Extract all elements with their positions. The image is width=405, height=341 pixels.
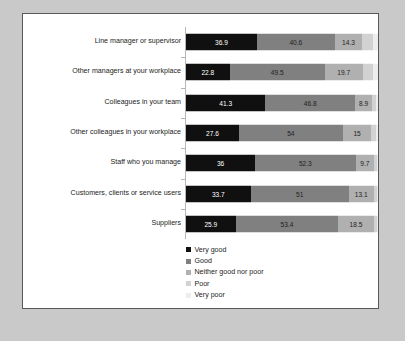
bar-segment: [363, 64, 373, 81]
chart-legend: Very goodGoodNeither good nor poorPoorVe…: [186, 244, 376, 301]
bar-segment: 15: [343, 124, 372, 141]
legend-item[interactable]: Very poor: [186, 290, 376, 301]
stacked-bar: 33.75113.1: [186, 185, 378, 202]
bar-segment: [373, 34, 378, 51]
bar-segment: 22.8: [186, 64, 230, 81]
bar-row: Suppliers25.953.418.5: [23, 209, 380, 239]
legend-label: Poor: [195, 280, 210, 288]
axis-tick: [181, 179, 185, 180]
legend-item[interactable]: Very good: [186, 244, 376, 255]
bar-segment: 41.3: [186, 94, 265, 111]
segment-value-label: 52.3: [299, 160, 312, 167]
legend-item[interactable]: Good: [186, 255, 376, 266]
legend-label: Good: [195, 257, 212, 265]
stacked-bar: 27.65415: [186, 124, 378, 141]
bar-segment: 53.4: [236, 215, 339, 232]
bar-segment: 9.7: [356, 155, 375, 172]
segment-value-label: 46.8: [304, 99, 317, 106]
category-label: Suppliers: [29, 220, 181, 228]
bar-segment: 46.8: [265, 94, 355, 111]
bar-segment: [373, 64, 378, 81]
bar-segment: 8.9: [355, 94, 372, 111]
category-label: Line manager or supervisor: [29, 38, 181, 46]
segment-value-label: 54: [287, 129, 294, 136]
chart-outer-frame: Line manager or supervisor36.940.614.3Ot…: [0, 0, 405, 341]
bar-segment: 33.7: [186, 185, 251, 202]
bar-segment: [377, 155, 378, 172]
legend-label: Very good: [195, 246, 227, 254]
bar-row: Colleagues in your team41.346.88.9: [23, 88, 380, 118]
axis-tick: [181, 148, 185, 149]
bar-segment: 36.9: [186, 34, 257, 51]
bar-row: Staff who you manage3652.39.7: [23, 148, 380, 178]
segment-value-label: 9.7: [360, 160, 369, 167]
stacked-bar: 22.849.519.7: [186, 64, 378, 81]
bar-segment: 18.5: [338, 215, 374, 232]
segment-value-label: 36.9: [215, 39, 228, 46]
legend-swatch-icon: [186, 259, 191, 264]
bar-segment: [377, 185, 378, 202]
legend-swatch-icon: [186, 293, 191, 298]
bar-segment: [376, 124, 378, 141]
legend-item[interactable]: Poor: [186, 278, 376, 289]
chart-panel: Line manager or supervisor36.940.614.3Ot…: [22, 13, 379, 309]
category-label: Colleagues in your team: [29, 99, 181, 107]
segment-value-label: 41.3: [219, 99, 232, 106]
bar-segment: 51: [251, 185, 349, 202]
axis-tick: [181, 57, 185, 58]
legend-label: Very poor: [195, 291, 225, 299]
bar-segment: [362, 34, 373, 51]
plot-area: Line manager or supervisor36.940.614.3Ot…: [23, 14, 380, 310]
legend-swatch-icon: [186, 270, 191, 275]
bar-row: Other managers at your workplace22.849.5…: [23, 57, 380, 87]
bar-segment: 49.5: [230, 64, 325, 81]
legend-label: Neither good nor poor: [195, 268, 264, 276]
segment-value-label: 19.7: [337, 69, 350, 76]
legend-swatch-icon: [186, 247, 191, 252]
segment-value-label: 15: [353, 129, 360, 136]
segment-value-label: 27.6: [206, 129, 219, 136]
segment-value-label: 36: [217, 160, 224, 167]
segment-value-label: 14.3: [342, 39, 355, 46]
bar-segment: 52.3: [255, 155, 355, 172]
category-label: Staff who you manage: [29, 159, 181, 167]
segment-value-label: 53.4: [281, 220, 294, 227]
category-label: Other managers at your workplace: [29, 68, 181, 76]
segment-value-label: 18.5: [350, 220, 363, 227]
segment-value-label: 22.8: [201, 69, 214, 76]
bar-segment: 19.7: [325, 64, 363, 81]
bar-segment: [377, 215, 378, 232]
bar-segment: 14.3: [335, 34, 362, 51]
bar-segment: 36: [186, 155, 255, 172]
stacked-bar: 36.940.614.3: [186, 34, 378, 51]
bar-segment: 54: [239, 124, 343, 141]
stacked-bar: 41.346.88.9: [186, 94, 378, 111]
segment-value-label: 8.9: [359, 99, 368, 106]
bar-segment: 13.1: [349, 185, 374, 202]
segment-value-label: 51: [296, 190, 303, 197]
axis-tick: [181, 88, 185, 89]
segment-value-label: 33.7: [212, 190, 225, 197]
category-label: Customers, clients or service users: [29, 190, 181, 198]
bar-row: Other colleagues in your workplace27.654…: [23, 118, 380, 148]
segment-value-label: 13.1: [355, 190, 368, 197]
category-label: Other colleagues in your workplace: [29, 129, 181, 137]
axis-tick: [181, 118, 185, 119]
segment-value-label: 49.5: [271, 69, 284, 76]
bar-segment: 25.9: [186, 215, 236, 232]
bar-segment: 40.6: [257, 34, 335, 51]
legend-item[interactable]: Neither good nor poor: [186, 267, 376, 278]
stacked-bar: 3652.39.7: [186, 155, 378, 172]
bar-segment: 27.6: [186, 124, 239, 141]
bar-row: Line manager or supervisor36.940.614.3: [23, 27, 380, 57]
stacked-bar: 25.953.418.5: [186, 215, 378, 232]
bar-row: Customers, clients or service users33.75…: [23, 179, 380, 209]
axis-tick: [181, 209, 185, 210]
legend-swatch-icon: [186, 281, 191, 286]
segment-value-label: 40.6: [289, 39, 302, 46]
segment-value-label: 25.9: [204, 220, 217, 227]
bar-segment: [376, 94, 378, 111]
